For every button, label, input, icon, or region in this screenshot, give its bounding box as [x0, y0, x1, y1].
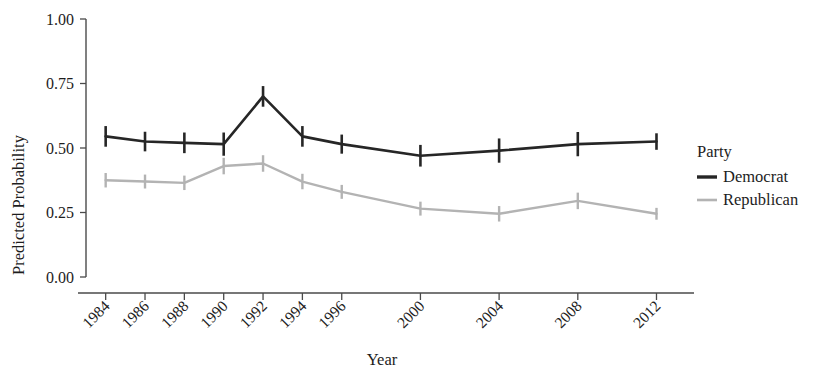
legend-entry-republican: Republican	[697, 190, 798, 209]
series-layer	[106, 86, 657, 221]
x-tick-label: 1984	[79, 297, 113, 331]
legend-entry-democrat: Democrat	[697, 167, 788, 186]
series-republican	[106, 155, 657, 221]
x-tick-label-group: 1984198619881990199219941996200020042008…	[79, 297, 664, 331]
x-tick-label: 2012	[630, 297, 664, 331]
x-axis-title: Year	[367, 350, 398, 369]
series-line	[106, 96, 657, 155]
x-tick-label: 2004	[472, 297, 506, 331]
x-tick-label: 1996	[315, 297, 349, 331]
x-tick-label: 1994	[276, 297, 310, 331]
y-tick-label: 1.00	[46, 11, 74, 28]
legend-entry-label: Democrat	[723, 167, 788, 186]
y-tick-label-group: 0.000.250.500.751.00	[46, 11, 74, 286]
legend-entries: DemocratRepublican	[697, 167, 798, 209]
y-tick-label: 0.00	[46, 269, 74, 286]
chart-figure: Predicted Probability 0.000.250.500.751.…	[0, 0, 814, 379]
series-democrat	[106, 86, 657, 166]
y-tick-label: 0.75	[46, 75, 74, 92]
x-tick-label: 2008	[551, 297, 585, 331]
y-tick-mark-group	[80, 19, 86, 277]
y-tick-label: 0.25	[46, 204, 74, 221]
y-tick-label: 0.50	[46, 140, 74, 157]
legend-title: Party	[697, 142, 733, 161]
x-tick-label: 2000	[394, 297, 428, 331]
x-tick-label: 1988	[158, 297, 192, 331]
x-tick-label: 1990	[197, 297, 231, 331]
predicted-probability-line-chart: Predicted Probability 0.000.250.500.751.…	[0, 0, 814, 379]
y-axis-title: Predicted Probability	[9, 134, 28, 275]
x-tick-label: 1992	[236, 297, 270, 331]
x-tick-label: 1986	[118, 297, 152, 331]
chart-legend: Party DemocratRepublican	[697, 142, 798, 209]
series-line	[106, 163, 657, 213]
legend-entry-label: Republican	[723, 190, 798, 209]
